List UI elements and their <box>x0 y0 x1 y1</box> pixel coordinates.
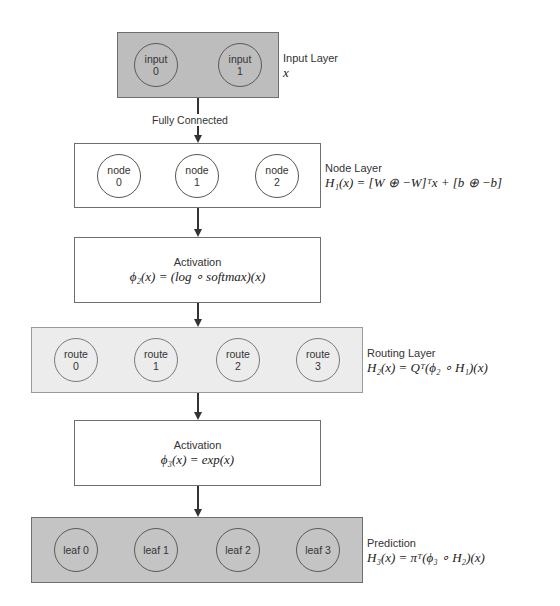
node-layer-box: node 0 node 1 node 2 <box>74 143 321 208</box>
node-2: node 2 <box>255 154 299 198</box>
routing-layer-label: Routing Layer H₂(x) = Qᵀ(ϕ₂ ∘ H₁)(x) <box>367 346 488 376</box>
leaf-node-1: leaf 1 <box>134 528 178 572</box>
activation-2-formula: ϕ₃(x) = exp(x) <box>161 452 234 468</box>
leaf-node-3: leaf 3 <box>296 528 340 572</box>
input-layer-formula: x <box>283 65 338 81</box>
route-node-2: route 2 <box>216 338 260 382</box>
node-layer-label: Node Layer H₁(x) = [W ⊕ −W]ᵀx + [b ⊕ −b] <box>325 161 502 191</box>
connector-activation2-prediction <box>197 486 199 509</box>
arrow-node-activation1 <box>194 229 202 237</box>
activation-2-title: Activation <box>174 438 222 452</box>
arrow-activation2-prediction <box>194 509 202 517</box>
node-1: node 1 <box>175 154 219 198</box>
prediction-layer-label: Prediction H₃(x) = πᵀ(ϕ₃ ∘ H₂)(x) <box>367 536 485 566</box>
routing-layer-box: route 0 route 1 route 2 route 3 <box>31 327 363 393</box>
input-layer-label: Input Layer x <box>283 51 338 81</box>
routing-layer-formula: H₂(x) = Qᵀ(ϕ₂ ∘ H₁)(x) <box>367 360 488 376</box>
route-node-3: route 3 <box>296 338 340 382</box>
connector-activation1-routing <box>197 303 199 319</box>
prediction-layer-formula: H₃(x) = πᵀ(ϕ₃ ∘ H₂)(x) <box>367 550 485 566</box>
activation-2-box: Activation ϕ₃(x) = exp(x) <box>74 420 321 486</box>
arrow-routing-activation2 <box>194 412 202 420</box>
leaf-node-2: leaf 2 <box>216 528 260 572</box>
connector-routing-activation2 <box>197 393 199 413</box>
arrow-input-node <box>194 135 202 143</box>
leaf-node-0: leaf 0 <box>54 528 98 572</box>
activation-1-box: Activation ϕ₂(x) = (log ∘ softmax)(x) <box>74 237 321 303</box>
node-0: node 0 <box>97 154 141 198</box>
connector-node-activation1 <box>197 208 199 229</box>
route-node-0: route 0 <box>54 338 98 382</box>
input-node-0: input 0 <box>134 43 178 87</box>
input-layer-box: input 0 input 1 <box>117 32 279 98</box>
arrow-activation1-routing <box>194 319 202 327</box>
input-node-1: input 1 <box>218 43 262 87</box>
node-layer-formula: H₁(x) = [W ⊕ −W]ᵀx + [b ⊕ −b] <box>325 175 502 191</box>
fully-connected-label: Fully Connected <box>150 114 230 126</box>
route-node-1: route 1 <box>134 338 178 382</box>
prediction-layer-box: leaf 0 leaf 1 leaf 2 leaf 3 <box>31 517 363 583</box>
activation-1-formula: ϕ₂(x) = (log ∘ softmax)(x) <box>130 269 266 285</box>
activation-1-title: Activation <box>174 255 222 269</box>
